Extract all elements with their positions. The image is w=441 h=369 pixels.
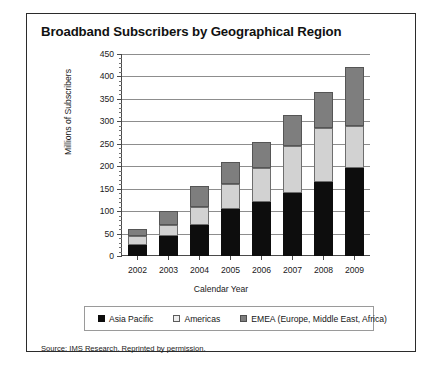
legend-swatch-icon [173, 315, 180, 322]
x-tick-mark [168, 256, 169, 260]
bar-segment [190, 225, 209, 256]
bar-segment [252, 168, 271, 202]
y-minor-tick [119, 72, 122, 73]
y-tick-mark [117, 166, 122, 167]
y-minor-tick [119, 157, 122, 158]
bar-2006[interactable]: 2006 [252, 142, 271, 256]
y-minor-tick [119, 103, 122, 104]
gridline [122, 54, 370, 55]
y-tick-mark [117, 121, 122, 122]
bar-segment [283, 146, 302, 193]
y-tick-mark [117, 144, 122, 145]
y-minor-tick [119, 202, 122, 203]
x-tick-mark [137, 256, 138, 260]
y-minor-tick [119, 67, 122, 68]
y-axis-line [121, 54, 122, 256]
bar-segment [159, 225, 178, 236]
bar-segment [128, 229, 147, 236]
y-tick-mark [117, 256, 122, 257]
bar-segment [252, 142, 271, 169]
legend-item[interactable]: Americas [173, 314, 220, 324]
y-minor-tick [119, 139, 122, 140]
x-tick-label: 2004 [190, 265, 209, 275]
bar-2002[interactable]: 2002 [128, 229, 147, 256]
y-minor-tick [119, 135, 122, 136]
legend-label: Asia Pacific [109, 314, 153, 324]
bar-segment [345, 168, 364, 256]
y-minor-tick [119, 90, 122, 91]
y-minor-tick [119, 175, 122, 176]
bar-2009[interactable]: 2009 [345, 67, 364, 256]
x-tick-mark [292, 256, 293, 260]
y-tick-mark [117, 54, 122, 55]
bar-2008[interactable]: 2008 [314, 92, 333, 256]
bar-segment [159, 211, 178, 224]
y-minor-tick [119, 162, 122, 163]
y-minor-tick [119, 207, 122, 208]
bar-segment [190, 207, 209, 226]
chart-figure-frame: Broadband Subscribers by Geographical Re… [26, 13, 416, 352]
bar-2004[interactable]: 2004 [190, 186, 209, 256]
x-axis-label: Calendar Year [27, 284, 415, 294]
bar-segment [221, 209, 240, 256]
bar-segment [221, 184, 240, 209]
y-minor-tick [119, 243, 122, 244]
legend-label: EMEA (Europe, Middle East, Africa) [251, 314, 387, 324]
y-minor-tick [119, 94, 122, 95]
y-minor-tick [119, 148, 122, 149]
y-minor-tick [119, 229, 122, 230]
x-tick-label: 2008 [314, 265, 333, 275]
bar-segment [314, 182, 333, 256]
y-tick-mark [117, 211, 122, 212]
bar-2003[interactable]: 2003 [159, 211, 178, 256]
y-minor-tick [119, 184, 122, 185]
bar-segment [128, 245, 147, 256]
bar-segment [221, 162, 240, 184]
legend-item[interactable]: Asia Pacific [98, 314, 153, 324]
y-tick-label: 250 [100, 139, 114, 149]
x-tick-mark [199, 256, 200, 260]
bar-segment [345, 126, 364, 169]
y-minor-tick [119, 171, 122, 172]
gridline [122, 76, 370, 77]
y-minor-tick [119, 117, 122, 118]
y-tick-mark [117, 189, 122, 190]
y-tick-label: 450 [100, 49, 114, 59]
y-tick-label: 100 [100, 206, 114, 216]
y-tick-mark [117, 76, 122, 77]
x-tick-label: 2005 [221, 265, 240, 275]
bar-segment [314, 128, 333, 182]
legend-label: Americas [184, 314, 220, 324]
y-minor-tick [119, 220, 122, 221]
y-tick-label: 0 [109, 251, 114, 261]
bar-segment [283, 115, 302, 146]
x-tick-mark [354, 256, 355, 260]
y-minor-tick [119, 108, 122, 109]
y-tick-label: 200 [100, 161, 114, 171]
bar-segment [252, 202, 271, 256]
y-minor-tick [119, 112, 122, 113]
x-tick-label: 2009 [345, 265, 364, 275]
bar-segment [345, 67, 364, 125]
x-tick-label: 2006 [252, 265, 271, 275]
bar-2007[interactable]: 2007 [283, 115, 302, 256]
x-tick-mark [261, 256, 262, 260]
x-tick-label: 2007 [283, 265, 302, 275]
y-axis-label: Millions of Subscribers [63, 69, 73, 155]
y-minor-tick [119, 252, 122, 253]
y-minor-tick [119, 247, 122, 248]
legend-item[interactable]: EMEA (Europe, Middle East, Africa) [240, 314, 387, 324]
chart-legend: Asia PacificAmericasEMEA (Europe, Middle… [84, 306, 374, 331]
plot-area: 050100150200250300350400450 200220032004… [122, 54, 370, 256]
source-note: Source: IMS Research. Reprinted by permi… [41, 344, 206, 353]
x-tick-mark [323, 256, 324, 260]
bar-2005[interactable]: 2005 [221, 162, 240, 256]
y-minor-tick [119, 238, 122, 239]
y-tick-label: 300 [100, 116, 114, 126]
bar-segment [159, 236, 178, 256]
legend-swatch-icon [240, 315, 247, 322]
x-tick-label: 2003 [159, 265, 178, 275]
y-minor-tick [119, 58, 122, 59]
y-minor-tick [119, 193, 122, 194]
y-minor-tick [119, 63, 122, 64]
